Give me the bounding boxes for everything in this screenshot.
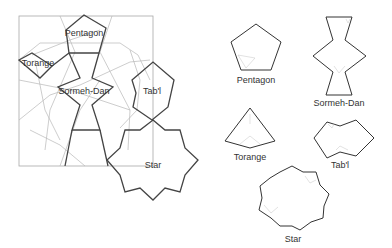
tile-label-sormeh-dan: Sormeh-Dan (313, 98, 364, 108)
tile-sormeh-dan: Sormeh-Dan (313, 17, 366, 108)
tile-label-pentagon: Pentagon (237, 75, 276, 85)
tile-label-tabl: Tab'l (331, 160, 349, 170)
tile-star: Star (259, 166, 329, 244)
composite-label-pentagon: Pentagon (65, 28, 104, 38)
diagram-canvas: Pentagon Torange Sormeh-Dan Tab'l Star P… (0, 0, 392, 248)
tile-label-torange: Torange (234, 152, 267, 162)
tile-label-star: Star (285, 234, 302, 244)
girih-tiles-diagram: Pentagon Torange Sormeh-Dan Tab'l Star P… (0, 0, 392, 248)
tile-tabl: Tab'l (314, 120, 374, 170)
composite-label-sormeh-dan: Sormeh-Dan (58, 86, 109, 96)
composite-label-torange: Torange (22, 58, 55, 68)
individual-tiles: Pentagon Sormeh-Dan Torange Tab'l (225, 17, 374, 244)
tile-pentagon: Pentagon (231, 24, 281, 85)
composite-label-star: Star (145, 160, 162, 170)
composite-label-tabl: Tab'l (143, 86, 161, 96)
tile-torange: Torange (225, 108, 275, 162)
composite-pattern: Pentagon Torange Sormeh-Dan Tab'l Star (19, 15, 198, 200)
